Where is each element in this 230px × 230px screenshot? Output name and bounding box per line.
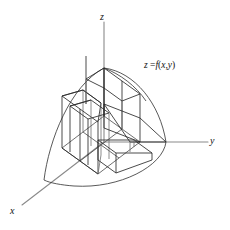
figure-container: z y x z =f(x,y) <box>0 0 230 230</box>
y-axis-label: y <box>210 136 214 146</box>
x-axis-line <box>22 142 104 205</box>
domain-arc-right <box>104 68 166 142</box>
z-axis-label: z <box>100 12 104 22</box>
box-hidden-edge <box>98 155 101 174</box>
box-top-edge <box>86 68 104 79</box>
domain-arc-left <box>44 68 104 180</box>
diagram-svg <box>0 0 230 230</box>
box-bottom-edge <box>116 160 152 173</box>
surface-label-close-paren: ) <box>172 60 175 70</box>
axes-group <box>22 22 208 205</box>
box-tall-left-column-2 <box>70 100 109 165</box>
box-top-edge <box>86 79 104 88</box>
box-mid-back-column <box>86 56 140 129</box>
connector-edge <box>62 90 83 96</box>
connector-edge <box>70 100 91 106</box>
surface-equation-label: z =f(x,y) <box>144 61 175 71</box>
x-axis-label: x <box>10 206 14 216</box>
